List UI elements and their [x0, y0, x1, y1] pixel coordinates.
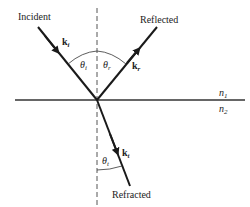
refracted-label: Refracted [112, 189, 151, 200]
refracted-vector-label: kt [122, 147, 131, 160]
incident-label: Incident [18, 11, 51, 22]
refracted-angle-arc [97, 166, 122, 170]
refraction-diagram: Incident Reflected Refracted ki kr kt θi… [0, 0, 250, 207]
medium-n2-label: n2 [219, 103, 228, 116]
refracted-angle-label: θt [102, 155, 110, 168]
incident-angle-label: θi [80, 59, 87, 72]
reflected-label: Reflected [140, 14, 178, 25]
reflected-angle-label: θr [103, 59, 111, 72]
incident-arrow [45, 36, 57, 51]
refracted-arrow [110, 134, 117, 152]
reflected-angle-arc [97, 51, 126, 64]
incident-vector-label: ki [62, 36, 70, 49]
reflected-vector-label: kr [132, 60, 141, 73]
medium-n1-label: n1 [219, 87, 228, 100]
